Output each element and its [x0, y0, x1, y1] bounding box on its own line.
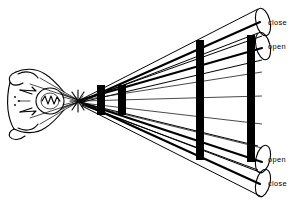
- label-top-open: open: [268, 42, 286, 51]
- bar-4: [247, 35, 255, 162]
- label-bottom-open: open: [268, 155, 286, 164]
- bar-2: [118, 85, 126, 115]
- optical-projection-diagram: close open open close: [0, 0, 292, 205]
- label-top-close: close: [268, 18, 287, 27]
- bar-3: [196, 40, 204, 160]
- diagram-canvas: close open open close: [0, 0, 292, 205]
- bar-1: [97, 85, 105, 115]
- label-bottom-close: close: [268, 179, 287, 188]
